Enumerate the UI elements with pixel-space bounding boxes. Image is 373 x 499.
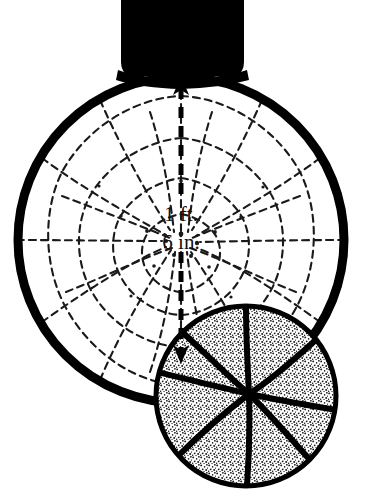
dimension-label-inches: 6 in. bbox=[162, 230, 199, 254]
basketball-hoop-diagram: 1 ft. 6 in. bbox=[0, 0, 373, 499]
diagram-canvas: 1 ft. 6 in. bbox=[0, 0, 373, 499]
dimension-label-feet: 1 ft. bbox=[164, 202, 198, 226]
